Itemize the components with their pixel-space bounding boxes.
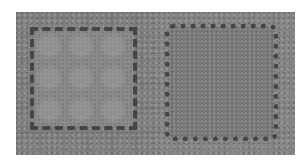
right-inner-region xyxy=(168,27,275,138)
right-texture-panel xyxy=(153,12,295,155)
left-texture-panel xyxy=(16,12,153,155)
left-inner-region xyxy=(33,30,134,127)
right-jagged-outline xyxy=(165,24,278,141)
left-jagged-outline xyxy=(30,27,137,130)
